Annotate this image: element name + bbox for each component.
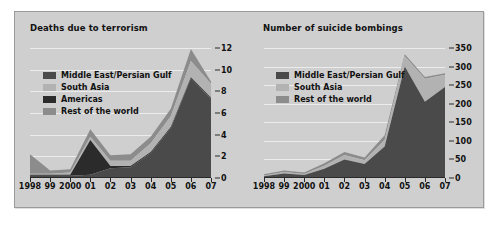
chart-deaths-due-to-terrorism: Deaths due to terrorism 024681012 199899… <box>15 12 250 207</box>
legend-swatch-icon <box>276 84 289 91</box>
x-axis-label: 01 <box>85 182 96 191</box>
legend-item: Middle East/Persian Gulf <box>276 70 405 81</box>
legend-right: Middle East/Persian GulfSouth AsiaRest o… <box>276 70 405 106</box>
legend-label: Rest of the world <box>61 107 139 116</box>
y-tick-mark <box>215 156 220 157</box>
legend-swatch-icon <box>43 72 56 79</box>
legend-swatch-icon <box>276 96 289 103</box>
chart-number-of-suicide-bombings: Number of suicide bombings 0501001502002… <box>248 12 483 207</box>
y-tick-mark <box>449 140 454 141</box>
legend-swatch-icon <box>43 108 56 115</box>
y-axis-label: 100 <box>455 136 472 145</box>
y-axis-label: 4 <box>221 130 227 139</box>
x-axis-label: 02 <box>105 182 116 191</box>
y-axis-label: 50 <box>455 155 466 164</box>
legend-label: Middle East/Persian Gulf <box>61 71 172 80</box>
x-axis-label: 1998 <box>253 182 275 191</box>
charts-panel: Deaths due to terrorism 024681012 199899… <box>14 11 484 208</box>
plot-area-right <box>264 48 445 178</box>
legend-label: Middle East/Persian Gulf <box>294 71 405 80</box>
screenshot-root: Deaths due to terrorism 024681012 199899… <box>0 0 500 227</box>
y-axis-label: 0 <box>221 174 227 183</box>
y-axis-label: 12 <box>221 44 232 53</box>
legend-left: Middle East/Persian GulfSouth AsiaAmeric… <box>43 70 172 118</box>
y-tick-mark <box>449 159 454 160</box>
legend-label: South Asia <box>294 83 342 92</box>
x-axis-label: 05 <box>399 182 410 191</box>
x-axis-label: 06 <box>419 182 430 191</box>
y-tick-mark <box>215 48 220 49</box>
y-axis-labels-left: 024681012 <box>215 48 249 178</box>
y-axis-labels-right: 050100150200250300350 <box>449 48 485 178</box>
legend-item: Rest of the world <box>43 106 172 117</box>
x-axis-labels-right: 199899200001020304050607 <box>264 182 445 196</box>
chart-title-left: Deaths due to terrorism <box>30 23 148 33</box>
y-axis-label: 0 <box>455 174 461 183</box>
x-axis-label: 02 <box>339 182 350 191</box>
x-axis-line-left <box>30 177 211 178</box>
y-axis-label: 2 <box>221 152 227 161</box>
x-axis-label: 07 <box>205 182 216 191</box>
x-axis-label: 1998 <box>19 182 41 191</box>
y-axis-label: 10 <box>221 65 232 74</box>
x-axis-label: 07 <box>439 182 450 191</box>
legend-item: Americas <box>43 94 172 105</box>
y-tick-mark <box>215 178 220 179</box>
x-axis-labels-left: 199899200001020304050607 <box>30 182 211 196</box>
x-axis-label: 99 <box>279 182 290 191</box>
y-tick-mark <box>449 48 454 49</box>
legend-label: Americas <box>61 95 103 104</box>
x-axis-label: 03 <box>359 182 370 191</box>
x-axis-label: 03 <box>125 182 136 191</box>
x-axis-label: 99 <box>45 182 56 191</box>
y-tick-mark <box>449 85 454 86</box>
legend-swatch-icon <box>276 72 289 79</box>
y-tick-mark <box>215 113 220 114</box>
legend-swatch-icon <box>43 84 56 91</box>
chart-title-right: Number of suicide bombings <box>263 23 403 33</box>
y-axis-label: 8 <box>221 87 227 96</box>
y-tick-mark <box>449 103 454 104</box>
legend-label: Rest of the world <box>294 95 372 104</box>
legend-swatch-icon <box>43 96 56 103</box>
x-axis-line-right <box>264 177 445 178</box>
y-axis-label: 200 <box>455 99 472 108</box>
y-axis-label: 350 <box>455 44 472 53</box>
x-axis-label: 04 <box>379 182 390 191</box>
y-tick-mark <box>215 69 220 70</box>
y-tick-mark <box>215 91 220 92</box>
x-axis-label: 04 <box>145 182 156 191</box>
legend-label: South Asia <box>61 83 109 92</box>
x-axis-label: 2000 <box>59 182 81 191</box>
y-tick-mark <box>449 122 454 123</box>
y-axis-label: 6 <box>221 109 227 118</box>
x-axis-label: 05 <box>165 182 176 191</box>
legend-item: Rest of the world <box>276 94 405 105</box>
y-axis-label: 150 <box>455 118 472 127</box>
y-axis-label: 300 <box>455 62 472 71</box>
y-axis-label: 250 <box>455 81 472 90</box>
y-tick-mark <box>215 134 220 135</box>
legend-item: Middle East/Persian Gulf <box>43 70 172 81</box>
y-tick-mark <box>449 66 454 67</box>
area-series-right <box>264 48 445 178</box>
legend-item: South Asia <box>43 82 172 93</box>
legend-item: South Asia <box>276 82 405 93</box>
y-tick-mark <box>449 178 454 179</box>
x-axis-label: 06 <box>185 182 196 191</box>
x-axis-label: 2000 <box>293 182 315 191</box>
x-axis-label: 01 <box>319 182 330 191</box>
